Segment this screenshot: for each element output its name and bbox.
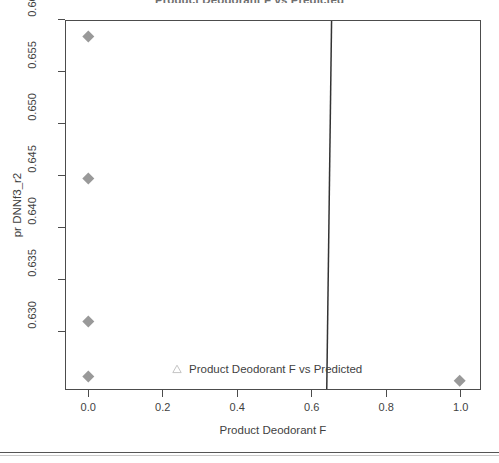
x-tick-mark	[386, 390, 387, 397]
x-tick-mark	[162, 390, 163, 397]
x-tick-mark	[237, 390, 238, 397]
data-point-marker	[82, 31, 94, 43]
x-tick-label: 0.8	[364, 401, 408, 413]
data-point-marker	[82, 370, 94, 382]
y-tick-label: 0.655	[26, 33, 38, 77]
chart-legend: Product Deodorant F vs Predicted	[172, 363, 362, 375]
x-tick-label: 0.6	[290, 401, 334, 413]
legend-label: Product Deodorant F vs Predicted	[189, 363, 362, 375]
plot-frame	[65, 20, 481, 390]
x-tick-label: 0.2	[141, 401, 185, 413]
y-tick-mark	[58, 175, 65, 176]
y-tick-mark	[58, 331, 65, 332]
y-tick-mark	[58, 19, 65, 20]
scatter-markers	[82, 31, 465, 387]
y-tick-label: 0.640	[26, 189, 38, 233]
x-tick-mark	[460, 390, 461, 397]
data-point-marker	[82, 316, 94, 328]
chart-title: Product Deodorant F vs Predicted	[0, 0, 499, 3]
fit-line	[327, 21, 332, 389]
chart-page: Product Deodorant F vs Predicted pr DNNf…	[0, 0, 499, 463]
y-tick-mark	[58, 227, 65, 228]
x-tick-mark	[88, 390, 89, 397]
y-tick-label: 0.645	[26, 137, 38, 181]
x-tick-label: 1.0	[439, 401, 483, 413]
y-tick-label: 0.635	[26, 241, 38, 285]
y-tick-label: 0.630	[26, 293, 38, 337]
y-tick-label: 0.660	[26, 0, 38, 25]
x-tick-label: 0.0	[66, 401, 110, 413]
y-tick-mark	[58, 71, 65, 72]
x-axis-title: Product Deodorant F	[65, 424, 481, 436]
plot-area	[66, 21, 480, 389]
footer-divider-secondary	[0, 455, 499, 456]
data-point-marker	[454, 375, 466, 387]
y-axis-title: pr DNNf3_r2	[11, 160, 23, 250]
data-point-marker	[82, 173, 94, 185]
y-tick-mark	[58, 123, 65, 124]
x-tick-mark	[311, 390, 312, 397]
x-tick-label: 0.4	[215, 401, 259, 413]
footer-divider	[0, 452, 499, 453]
data-layer	[66, 21, 480, 389]
y-tick-label: 0.650	[26, 85, 38, 129]
y-tick-mark	[58, 279, 65, 280]
triangle-up-icon	[172, 364, 182, 374]
